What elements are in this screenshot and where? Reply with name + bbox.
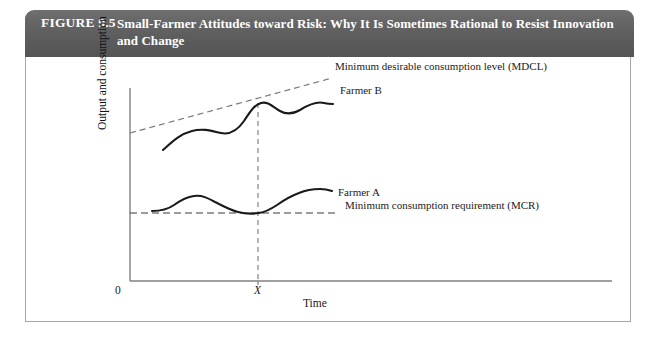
x-axis-label: Time xyxy=(303,297,327,309)
x-axis-origin-label: 0 xyxy=(115,284,121,296)
figure-title: Small-Farmer Attitudes toward Risk: Why … xyxy=(117,15,625,49)
figure-title-banner: FIGURE 9.5 Small-Farmer Attitudes toward… xyxy=(25,10,634,57)
mdcl-label: Minimum desirable consumption level (MDC… xyxy=(335,60,547,72)
figure-page: FIGURE 9.5 Small-Farmer Attitudes toward… xyxy=(0,0,658,341)
x-axis-marker-label: X xyxy=(254,284,261,296)
farmer-a-label: Farmer A xyxy=(338,186,380,198)
mcr-label: Minimum consumption requirement (MCR) xyxy=(345,199,539,211)
farmer-b-label: Farmer B xyxy=(340,84,382,96)
y-axis-label: Output and consumption xyxy=(96,0,108,130)
